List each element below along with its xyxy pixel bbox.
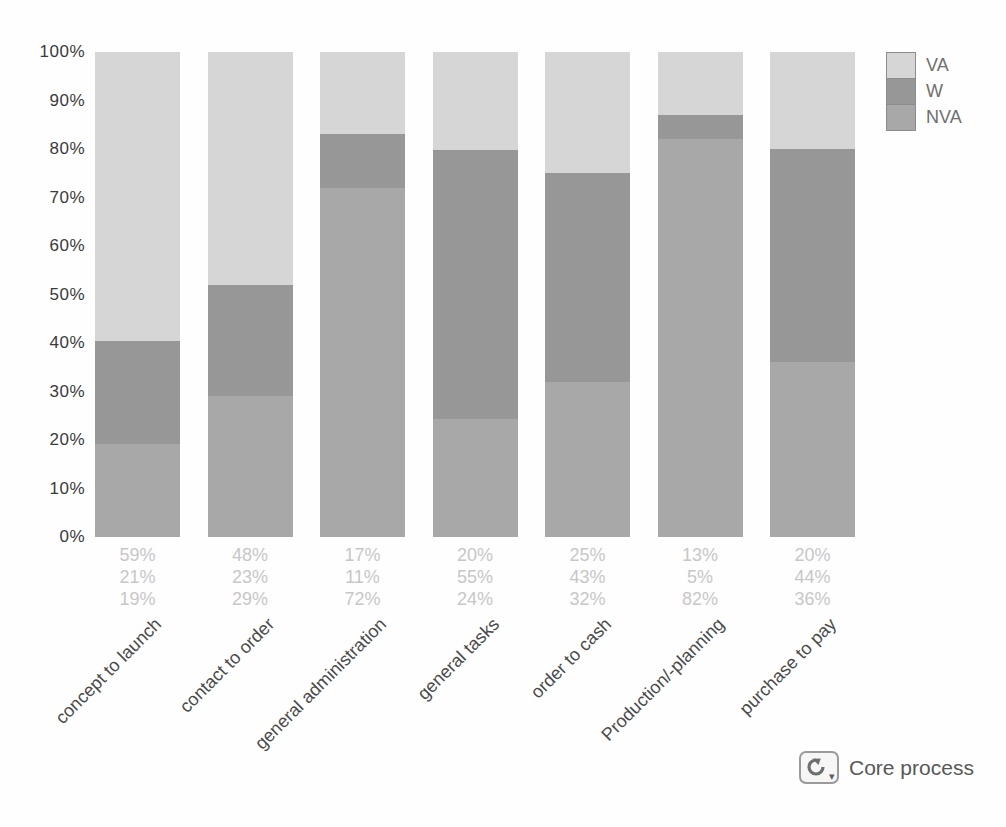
value-label-va: 25% — [531, 544, 644, 566]
y-axis-tick-label: 70% — [23, 188, 85, 208]
bar-segment-va — [320, 52, 405, 134]
bar-concept-to-launch — [95, 52, 180, 537]
bar-segment-w — [433, 150, 518, 419]
legend: VA W NVA — [886, 52, 962, 131]
value-label-va: 20% — [756, 544, 869, 566]
bar-segment-nva — [658, 139, 743, 537]
value-label-w: 44% — [756, 566, 869, 588]
category-label: concept to launch — [52, 614, 167, 729]
dropdown-caret-icon: ▾ — [829, 771, 835, 781]
bar-segment-nva — [545, 382, 630, 537]
value-label-w: 5% — [644, 566, 757, 588]
legend-swatch-w — [886, 78, 916, 105]
value-label-va: 13% — [644, 544, 757, 566]
bar-segment-nva — [208, 396, 293, 537]
value-label-nva: 24% — [419, 588, 532, 610]
y-axis-tick-label: 20% — [23, 430, 85, 450]
bar-segment-va — [433, 52, 518, 150]
bar-segment-nva — [320, 188, 405, 537]
bar-segment-nva — [770, 362, 855, 537]
bar-segment-w — [95, 341, 180, 444]
bar-value-labels: 59%21%19% — [81, 544, 194, 610]
value-label-va: 59% — [81, 544, 194, 566]
bar-general-administration — [320, 52, 405, 537]
bar-purchase-to-pay — [770, 52, 855, 537]
y-axis-tick-label: 80% — [23, 139, 85, 159]
value-label-nva: 72% — [306, 588, 419, 610]
value-label-w: 21% — [81, 566, 194, 588]
bar-segment-va — [770, 52, 855, 149]
bar-value-labels: 20%55%24% — [419, 544, 532, 610]
bar-segment-va — [208, 52, 293, 285]
bar-segment-w — [320, 134, 405, 187]
bar-value-labels: 17%11%72% — [306, 544, 419, 610]
bar-value-labels: 20%44%36% — [756, 544, 869, 610]
category-label: general tasks — [413, 614, 504, 705]
bar-segment-nva — [95, 444, 180, 537]
y-axis-tick-label: 30% — [23, 382, 85, 402]
value-label-va: 20% — [419, 544, 532, 566]
y-axis-tick-label: 40% — [23, 333, 85, 353]
value-label-w: 55% — [419, 566, 532, 588]
core-process-control: ▾ Core process — [799, 751, 974, 784]
bar-segment-w — [545, 173, 630, 382]
category-label: Production/-planning — [597, 614, 729, 746]
bar-value-labels: 25%43%32% — [531, 544, 644, 610]
bar-value-labels: 48%23%29% — [194, 544, 307, 610]
bar-segment-w — [770, 149, 855, 362]
bar-contact-to-order — [208, 52, 293, 537]
bar-segment-va — [658, 52, 743, 115]
bar-value-labels: 13%5%82% — [644, 544, 757, 610]
value-label-w: 11% — [306, 566, 419, 588]
y-axis-tick-label: 100% — [23, 42, 85, 62]
value-label-nva: 36% — [756, 588, 869, 610]
value-label-va: 17% — [306, 544, 419, 566]
bar-segment-va — [545, 52, 630, 173]
core-process-label: Core process — [849, 756, 974, 780]
value-label-nva: 82% — [644, 588, 757, 610]
category-label: order to cash — [527, 614, 616, 703]
legend-label-nva: NVA — [926, 104, 962, 130]
legend-label-va: VA — [926, 52, 962, 78]
bar-production-planning — [658, 52, 743, 537]
legend-label-w: W — [926, 78, 962, 104]
bar-segment-w — [658, 115, 743, 139]
y-axis-tick-label: 0% — [23, 527, 85, 547]
value-label-w: 43% — [531, 566, 644, 588]
category-label: purchase to pay — [736, 614, 841, 719]
bar-segment-va — [95, 52, 180, 341]
legend-swatch-column — [886, 52, 916, 131]
value-label-nva: 29% — [194, 588, 307, 610]
chart-page: 100%90%80%70%60%50%40%30%20%10%0%59%21%1… — [0, 0, 1006, 827]
bar-order-to-cash — [545, 52, 630, 537]
bar-segment-nva — [433, 419, 518, 537]
y-axis-tick-label: 50% — [23, 285, 85, 305]
category-label: contact to order — [176, 614, 279, 717]
bar-segment-w — [208, 285, 293, 397]
core-process-button[interactable]: ▾ — [799, 751, 839, 784]
value-label-w: 23% — [194, 566, 307, 588]
y-axis-tick-label: 60% — [23, 236, 85, 256]
legend-swatch-va — [886, 52, 916, 79]
value-label-nva: 19% — [81, 588, 194, 610]
legend-swatch-nva — [886, 104, 916, 131]
legend-labels: VA W NVA — [926, 52, 962, 131]
value-label-va: 48% — [194, 544, 307, 566]
refresh-icon — [805, 757, 829, 783]
y-axis-tick-label: 90% — [23, 91, 85, 111]
y-axis-tick-label: 10% — [23, 479, 85, 499]
bar-general-tasks — [433, 52, 518, 537]
value-label-nva: 32% — [531, 588, 644, 610]
